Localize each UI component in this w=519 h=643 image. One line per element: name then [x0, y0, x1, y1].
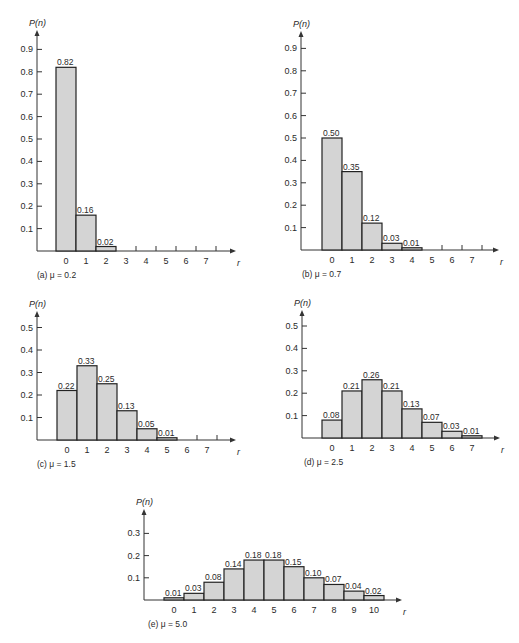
y-tick-label: 0.4 [20, 156, 33, 166]
y-tick-label: 0.7 [284, 88, 297, 98]
chart-caption: (e) μ = 5.0 [148, 619, 187, 629]
x-tick-label: 6 [449, 255, 454, 265]
x-axis-label: r [501, 445, 505, 455]
poisson-distribution-figure: P(n)r0.10.20.30.40.50.60.70.80.90.8200.1… [0, 0, 519, 643]
y-axis-label: P(n) [136, 497, 153, 507]
bar-1 [342, 172, 362, 250]
y-tick-label: 0.4 [20, 345, 33, 355]
bar-4 [402, 248, 422, 250]
x-axis-label: r [500, 257, 504, 267]
y-axis-label: P(n) [293, 19, 310, 29]
chart-caption: (b) μ = 0.7 [302, 269, 341, 279]
bar-value-label: 0.07 [423, 412, 440, 422]
bar-value-label: 0.04 [345, 581, 362, 591]
x-tick-label: 0 [329, 255, 334, 265]
x-tick-label: 0 [63, 256, 68, 266]
bar-6 [284, 567, 304, 600]
y-tick-label: 0.1 [284, 223, 297, 233]
bar-1 [76, 215, 96, 251]
bar-5 [264, 560, 284, 600]
y-tick-label: 0.3 [20, 179, 33, 189]
x-tick-label: 7 [469, 255, 474, 265]
y-tick-label: 0.9 [284, 43, 297, 53]
bar-1 [184, 593, 204, 600]
bar-value-label: 0.05 [138, 419, 155, 429]
y-tick-label: 0.2 [285, 388, 298, 398]
y-tick-label: 0.4 [284, 155, 297, 165]
x-tick-label: 5 [163, 256, 168, 266]
bar-value-label: 0.21 [343, 381, 360, 391]
x-tick-label: 6 [184, 445, 189, 455]
x-tick-label: 1 [83, 256, 88, 266]
bar-0 [164, 598, 184, 600]
x-axis-arrow-icon [230, 249, 236, 254]
x-tick-label: 3 [389, 443, 394, 453]
x-tick-label: 7 [203, 256, 208, 266]
bar-10 [364, 596, 384, 600]
x-tick-label: 4 [144, 445, 149, 455]
bar-7 [462, 436, 482, 438]
y-tick-label: 0.2 [284, 200, 297, 210]
bar-0 [56, 67, 76, 251]
y-tick-label: 0.8 [284, 66, 297, 76]
bar-3 [224, 569, 244, 600]
x-tick-label: 5 [429, 255, 434, 265]
chart-caption: (c) μ = 1.5 [37, 459, 76, 469]
x-tick-label: 3 [124, 445, 129, 455]
bar-value-label: 0.01 [165, 588, 182, 598]
x-tick-label: 3 [123, 256, 128, 266]
x-tick-label: 7 [204, 445, 209, 455]
bar-3 [117, 411, 137, 440]
bar-4 [402, 409, 422, 438]
x-axis-arrow-icon [493, 248, 499, 253]
y-axis-label: P(n) [29, 18, 46, 28]
x-tick-label: 5 [271, 605, 276, 615]
y-axis-arrow-icon [300, 310, 305, 316]
x-tick-label: 2 [369, 255, 374, 265]
x-tick-label: 4 [409, 443, 414, 453]
chart-panel-a: P(n)r0.10.20.30.40.50.60.70.80.90.8200.1… [20, 18, 241, 280]
bar-8 [324, 584, 344, 600]
x-axis-label: r [237, 258, 241, 268]
x-axis-label: r [403, 607, 407, 617]
x-axis-label: r [237, 447, 241, 457]
bar-1 [342, 391, 362, 438]
bar-2 [204, 582, 224, 600]
chart-panel-c: P(n)r0.10.20.30.40.50.2200.3310.2520.133… [20, 299, 241, 469]
chart-panel-d: P(n)r0.10.20.30.40.50.0800.2110.2620.213… [285, 298, 505, 467]
x-tick-label: 3 [231, 605, 236, 615]
y-tick-label: 0.3 [285, 366, 298, 376]
x-tick-label: 1 [84, 445, 89, 455]
x-tick-label: 5 [429, 443, 434, 453]
chart-panel-e: P(n)r0.10.20.30.0100.0310.0820.1430.1840… [127, 497, 407, 629]
y-tick-label: 0.3 [20, 368, 33, 378]
bar-value-label: 0.33 [78, 356, 95, 366]
y-tick-label: 0.4 [285, 343, 298, 353]
bar-value-label: 0.10 [305, 568, 322, 578]
bar-value-label: 0.14 [225, 559, 242, 569]
bar-value-label: 0.13 [403, 399, 420, 409]
bar-value-label: 0.01 [403, 238, 420, 248]
y-axis-arrow-icon [299, 31, 304, 37]
bar-value-label: 0.03 [383, 233, 400, 243]
y-tick-label: 0.2 [20, 390, 33, 400]
bar-5 [157, 438, 177, 440]
chart-caption: (a) μ = 0.2 [37, 270, 76, 280]
bar-value-label: 0.16 [77, 205, 94, 215]
x-tick-label: 2 [369, 443, 374, 453]
bar-value-label: 0.21 [383, 381, 400, 391]
bar-value-label: 0.08 [323, 410, 340, 420]
y-axis-arrow-icon [35, 30, 40, 36]
bar-2 [362, 380, 382, 438]
y-tick-label: 0.2 [20, 201, 33, 211]
bar-value-label: 0.02 [365, 586, 382, 596]
x-tick-label: 6 [449, 443, 454, 453]
bar-1 [77, 366, 97, 440]
bar-value-label: 0.18 [245, 550, 262, 560]
bar-0 [57, 391, 77, 441]
x-tick-label: 5 [164, 445, 169, 455]
x-axis-arrow-icon [494, 436, 500, 441]
x-tick-label: 0 [171, 605, 176, 615]
x-tick-label: 2 [211, 605, 216, 615]
bar-value-label: 0.01 [158, 428, 175, 438]
